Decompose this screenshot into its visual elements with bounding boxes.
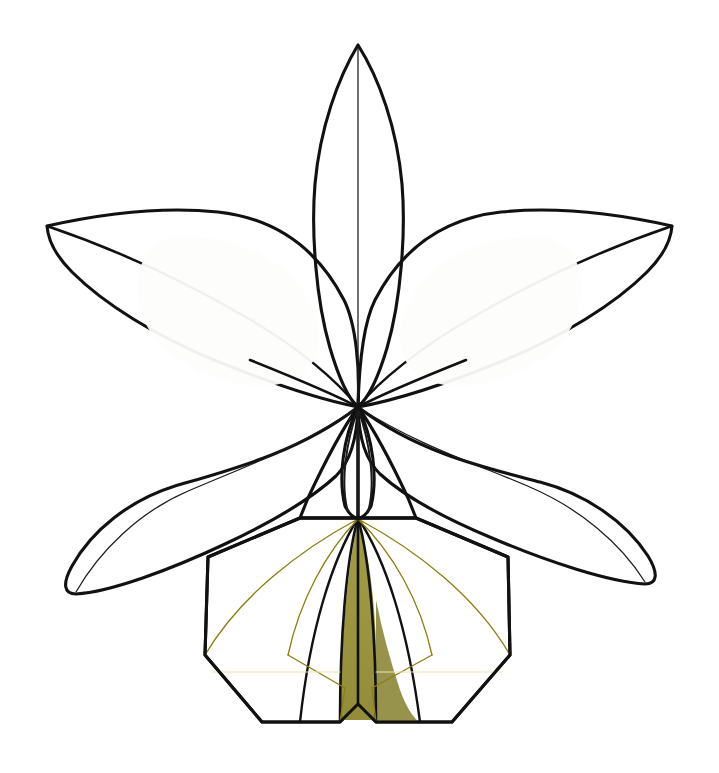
orchid-illustration: [0, 0, 719, 773]
orchid-diagram-svg: [0, 0, 719, 773]
center-hub-point: [355, 404, 360, 409]
lip-apex-point: [355, 515, 360, 520]
